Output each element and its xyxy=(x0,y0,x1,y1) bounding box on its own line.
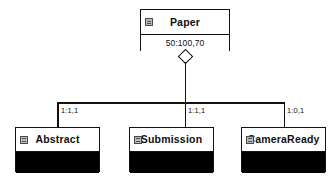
class-name-label: Abstract xyxy=(35,134,79,145)
class-name-compartment-submission: Submission xyxy=(130,128,213,151)
class-filled-compartment-cameraready xyxy=(242,151,325,173)
class-box-abstract[interactable]: Abstract xyxy=(15,127,100,172)
class-filled-compartment-submission xyxy=(130,151,213,173)
multiplicity-label-abstract: 1:1,1 xyxy=(61,107,78,115)
class-icon xyxy=(246,136,254,144)
multiplicity-label-cameraready: 1:0,1 xyxy=(287,107,304,115)
class-name-compartment-paper: Paper xyxy=(141,10,229,34)
class-icon xyxy=(145,18,153,26)
connector-drop-submission xyxy=(185,102,187,127)
connector-drop-cameraready xyxy=(284,102,286,127)
class-icon xyxy=(20,136,28,144)
class-name-label: Submission xyxy=(141,134,203,145)
connector-horizontal-bar xyxy=(57,102,285,104)
connector-stem xyxy=(185,62,187,103)
class-box-cameraready[interactable]: CameraReady xyxy=(241,127,326,172)
class-attributes-label: 50:100,70 xyxy=(166,39,205,48)
class-box-paper[interactable]: Paper 50:100,70 xyxy=(140,9,230,51)
class-name-label: CameraReady xyxy=(247,134,319,145)
class-name-compartment-cameraready: CameraReady xyxy=(242,128,325,151)
multiplicity-label-submission: 1:1,1 xyxy=(188,107,205,115)
connector-drop-abstract xyxy=(57,102,59,127)
class-name-label: Paper xyxy=(170,17,200,28)
class-name-compartment-abstract: Abstract xyxy=(16,128,99,151)
class-icon xyxy=(134,136,142,144)
class-box-submission[interactable]: Submission xyxy=(129,127,214,172)
uml-diagram-canvas: Paper 50:100,70 1:1,1 1:1,1 1:0,1 Abstra… xyxy=(0,0,336,186)
class-filled-compartment-abstract xyxy=(16,151,99,173)
